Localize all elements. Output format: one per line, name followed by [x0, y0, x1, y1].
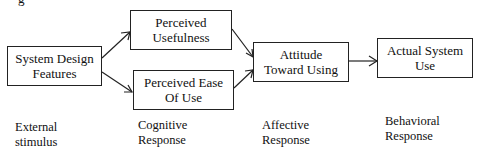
stage-line2: Response [138, 133, 187, 148]
stage-line1: Behavioral [385, 114, 440, 129]
stage-line2: Response [385, 129, 440, 144]
node-label-line2: Features [15, 66, 93, 81]
stage-line1: Affective [262, 118, 310, 133]
node-actual-system-use: Actual System Use [377, 38, 473, 78]
node-label-line1: System Design [15, 51, 93, 66]
stage-line2: stimulus [15, 135, 57, 150]
stage-label-affective-response: Affective Response [262, 118, 310, 148]
stage-line1: External [15, 120, 57, 135]
arrow-sdf-to-pu [102, 32, 130, 58]
node-system-design-features: System Design Features [7, 46, 102, 86]
arrow-pu-to-att [232, 29, 253, 57]
node-attitude-toward-using: Attitude Toward Using [253, 42, 349, 82]
node-label-line1: Perceived Ease [144, 75, 223, 90]
node-label-line1: Perceived [152, 15, 209, 30]
stage-label-cognitive-response: Cognitive Response [138, 118, 187, 148]
arrow-sdf-to-peou [102, 72, 132, 92]
node-label-line1: Actual System [387, 43, 463, 58]
node-label-line2: Usefulness [152, 30, 209, 45]
stage-line2: Response [262, 133, 310, 148]
node-label-line2: Toward Using [264, 62, 338, 77]
node-perceived-usefulness: Perceived Usefulness [130, 10, 232, 50]
node-perceived-ease-of-use: Perceived Ease Of Use [133, 70, 234, 110]
stage-label-behavioral-response: Behavioral Response [385, 114, 440, 144]
node-label-line1: Attitude [264, 47, 338, 62]
arrow-peou-to-att [234, 70, 253, 88]
node-label-line2: Use [387, 58, 463, 73]
node-label-line2: Of Use [144, 90, 223, 105]
stage-label-external-stimulus: External stimulus [15, 120, 57, 150]
stage-line1: Cognitive [138, 118, 187, 133]
